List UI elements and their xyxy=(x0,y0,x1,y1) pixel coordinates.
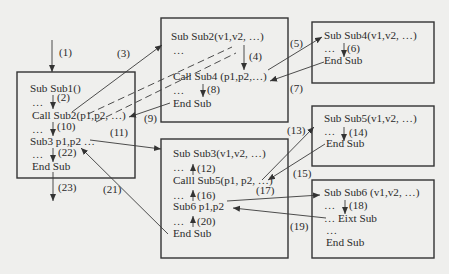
sub6-line-1: … xyxy=(324,199,335,211)
sub3-line-5: … xyxy=(173,215,184,227)
edge-5-label: (5) xyxy=(290,37,303,50)
sub1-line-1: … xyxy=(32,96,43,108)
sub2-line-2: Call Sub4 (p1,p2,…) xyxy=(173,70,267,83)
diagram-stage: Sub Sub1() … Call Sub2(p1,p2, …) … Sub3 … xyxy=(0,0,449,274)
sub1-line-0: Sub Sub1() xyxy=(30,82,81,95)
edge-7-label: (7) xyxy=(290,82,303,95)
sub4-line-1: … xyxy=(324,42,335,54)
sub6-line-0: Sub Sub6 (v1,v2, …) xyxy=(324,186,420,199)
call-flow-diagram: Sub Sub1() … Call Sub2(p1,p2, …) … Sub3 … xyxy=(0,0,449,274)
sub6-line-3: … xyxy=(326,224,337,236)
sub1-line-6: End Sub xyxy=(32,160,71,172)
sub2-line-0: Sub Sub2(v1,v2, …) xyxy=(171,30,264,43)
edge-6-label: (6) xyxy=(347,42,360,55)
sub1-line-3: … xyxy=(32,123,43,135)
sub4-line-0: Sub Sub4(v1,v2, …) xyxy=(324,29,417,42)
edge-21-label: (21) xyxy=(103,183,122,196)
sub6-line-2: … Eixt Sub xyxy=(324,212,377,224)
sub5-line-2: End Sub xyxy=(326,137,365,149)
sub3-line-0: Sub Sub3(v1,v2, …) xyxy=(173,147,266,160)
edge-10-label: (10) xyxy=(57,120,76,133)
sub3-line-1: … xyxy=(173,161,184,173)
edge-12-label: (12) xyxy=(197,162,216,175)
edge-11-label: (11) xyxy=(110,126,128,139)
sub1-line-5: … xyxy=(32,148,43,160)
sub2-line-4: End Sub xyxy=(173,97,212,109)
edge-7-arrow xyxy=(270,62,324,81)
edge-18-label: (18) xyxy=(349,199,368,212)
edge-16-label: (16) xyxy=(197,189,216,202)
edge-13-label: (13) xyxy=(287,124,306,137)
sub2-line-3: … xyxy=(173,84,184,96)
sub6-line-4: End Sub xyxy=(326,236,365,248)
sub5-line-0: Sub Sub5(v1,v2, …) xyxy=(324,112,417,125)
edge-17-label: (17) xyxy=(256,184,275,197)
edge-8-label: (8) xyxy=(207,83,220,96)
edge-3-label: (3) xyxy=(117,47,130,60)
edge-15-label: (15) xyxy=(293,167,312,180)
edge-22-label: (22) xyxy=(58,146,77,159)
sub1-line-2: Call Sub2(p1,p2, …) xyxy=(32,109,126,122)
edge-2-label: (2) xyxy=(57,91,70,104)
sub2-line-1: … xyxy=(173,44,184,56)
edge-21-arrow xyxy=(81,148,168,234)
sub3-line-6: End Sub xyxy=(173,227,212,239)
edge-11-arrow xyxy=(90,140,161,149)
sub3-line-4: Sub6 p1,p2 xyxy=(173,200,224,212)
edge-9-label: (9) xyxy=(144,112,157,125)
edge-1-label: (1) xyxy=(59,46,72,59)
edge-23-label: (23) xyxy=(58,181,77,194)
edge-14-label: (14) xyxy=(349,126,368,139)
sub4-line-2: End Sub xyxy=(324,54,363,66)
edge-19-label: (19) xyxy=(290,220,309,233)
edge-20-label: (20) xyxy=(197,215,216,228)
sub5-line-1: … xyxy=(324,125,335,137)
edge-4-label: (4) xyxy=(249,50,262,63)
